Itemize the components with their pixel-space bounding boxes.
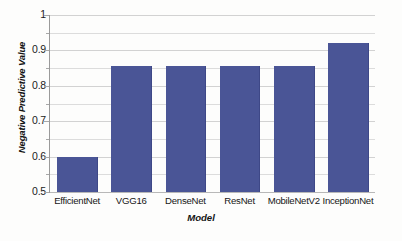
x-axis-tick-label: EfficientNet xyxy=(50,195,104,206)
y-axis-tick-label: 1 xyxy=(6,8,46,20)
x-axis-tick-label: ResNet xyxy=(213,195,267,206)
negative-predictive-value-bar-chart: 0.50.60.70.80.91 EfficientNetVGG16DenseN… xyxy=(0,0,402,241)
y-axis-tick-mark xyxy=(44,192,49,193)
bar-resnet xyxy=(220,66,261,192)
y-axis-tick-mark xyxy=(46,174,49,175)
x-axis-title: Model xyxy=(0,212,402,223)
y-axis-tick-mark xyxy=(44,86,49,87)
bars-layer xyxy=(50,15,375,192)
y-axis-tick-mark xyxy=(46,68,49,69)
x-axis-tick-label: VGG16 xyxy=(104,195,158,206)
gridline xyxy=(50,192,375,193)
y-axis-tick-label: 0.5 xyxy=(6,185,46,197)
plot-area xyxy=(50,15,375,192)
y-axis-tick-mark xyxy=(46,139,49,140)
bar-inceptionnet xyxy=(328,43,369,192)
y-axis-tick-mark xyxy=(44,121,49,122)
x-axis-tick-label: InceptionNet xyxy=(321,195,375,206)
y-axis-title: Negative Predictive Value xyxy=(16,28,27,168)
bar-mobilenetv2 xyxy=(274,66,315,192)
bar-efficientnet xyxy=(57,157,98,192)
y-axis-tick-mark xyxy=(46,33,49,34)
y-axis-tick-mark xyxy=(44,157,49,158)
bar-densenet xyxy=(166,66,207,192)
y-axis-tick-mark xyxy=(44,15,49,16)
bar-vgg16 xyxy=(111,66,152,192)
x-axis-tick-label: MobileNetV2 xyxy=(267,195,321,206)
y-axis-tick-mark xyxy=(44,50,49,51)
y-axis-tick-mark xyxy=(46,104,49,105)
x-axis-tick-label: DenseNet xyxy=(158,195,212,206)
